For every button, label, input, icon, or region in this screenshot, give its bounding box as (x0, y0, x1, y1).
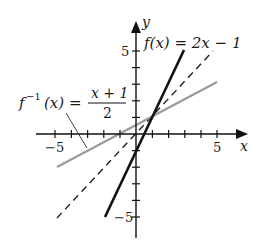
inverse-function-diagram: −5 5 5 −5 x y f(x) = 2x − 1 f −1 (x) = x… (0, 0, 262, 250)
inverse-label-superscript: −1 (26, 91, 41, 102)
y-tick-label-5: 5 (121, 44, 129, 59)
inverse-label-argument: (x) = (44, 94, 82, 112)
inverse-function-label: f −1 (x) = x + 1 2 (18, 85, 128, 121)
x-tick-label-neg5: −5 (45, 140, 64, 155)
y-axis-arrow-icon (131, 21, 141, 33)
y-tick-label-neg5: −5 (114, 210, 133, 225)
x-axis-label: x (240, 138, 248, 154)
x-tick-label-5: 5 (213, 140, 221, 155)
function-label: f(x) = 2x − 1 (143, 34, 241, 52)
inverse-label-denominator: 2 (103, 105, 112, 121)
inverse-label-pointer (66, 113, 87, 148)
inverse-label-numerator: x + 1 (91, 85, 128, 101)
y-axis-label: y (141, 14, 151, 30)
